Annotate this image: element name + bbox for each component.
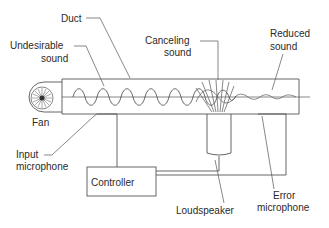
controller-label: Controller xyxy=(91,177,135,188)
fan-icon xyxy=(29,82,62,112)
input-microphone-leader xyxy=(44,117,93,155)
error-microphone-leader xyxy=(262,116,274,189)
loudspeaker xyxy=(207,114,231,155)
duct-leader xyxy=(86,18,130,78)
error-microphone-label-2: microphone xyxy=(257,202,310,213)
undesirable-sound-label-1: Undesirable xyxy=(10,40,64,51)
duct xyxy=(62,79,310,114)
reduced-sound-leader xyxy=(272,54,283,90)
reduced-sound-label-2: sound xyxy=(270,41,297,52)
canceling-sound-leader xyxy=(200,41,218,80)
canceling-sound-label-1: Canceling xyxy=(145,35,189,46)
duct-label: Duct xyxy=(61,13,82,24)
undesirable-sound-leader xyxy=(74,46,104,86)
canceling-sound-label-2: sound xyxy=(164,47,191,58)
loudspeaker-label: Loudspeaker xyxy=(176,205,234,216)
error-microphone-label-1: Error xyxy=(273,190,296,201)
reduced-sound-label-1: Reduced xyxy=(270,28,310,39)
noise-cancellation-diagram: Controller Duct Undesirable sound Cancel… xyxy=(0,0,329,228)
input-microphone-label-2: microphone xyxy=(16,161,69,172)
speaker-wire xyxy=(156,156,219,171)
loudspeaker-leader xyxy=(215,160,224,203)
fan-label: Fan xyxy=(32,117,49,128)
input-microphone-label-1: Input xyxy=(16,149,38,160)
undesirable-sound-label-2: sound xyxy=(41,53,68,64)
input-microphone-wire xyxy=(97,114,117,152)
